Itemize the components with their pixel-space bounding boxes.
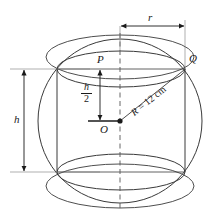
- label-half-height: h 2: [80, 82, 93, 104]
- label-point-P: P: [97, 54, 104, 65]
- half-height-denominator: 2: [80, 94, 93, 105]
- label-dimension-h: h: [14, 114, 20, 125]
- geometry-figure: P Q O h r h 2 R = 12 cm: [0, 0, 211, 221]
- half-height-numerator: h: [80, 82, 93, 93]
- sphere-cylinder-diagram: [0, 0, 211, 221]
- label-point-O: O: [100, 124, 108, 135]
- label-dimension-r: r: [148, 12, 152, 23]
- label-point-Q: Q: [189, 53, 197, 64]
